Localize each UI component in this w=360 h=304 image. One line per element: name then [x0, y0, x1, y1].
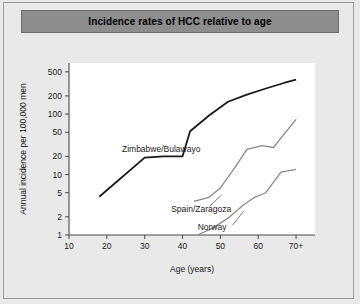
figure-container: Incidence rates of HCC relative to age 5… — [0, 0, 360, 304]
x-tick-label: 30 — [140, 241, 150, 251]
series-label: Zimbabwe/Bulawayo — [122, 144, 201, 154]
y-axis-ticks: 500200100502010521 — [48, 67, 69, 240]
series-label: Spain/Zaragoza — [171, 204, 231, 214]
y-tick-label: 100 — [48, 109, 62, 119]
y-tick-label: 200 — [48, 91, 62, 101]
x-axis-ticks: 10203040506070+ — [64, 235, 303, 251]
x-tick-label: 70+ — [289, 241, 303, 251]
series-label: Norway — [198, 222, 228, 232]
y-tick-label: 2 — [57, 212, 62, 222]
y-tick-label: 1 — [57, 230, 62, 240]
x-tick-label: 60 — [253, 241, 263, 251]
x-tick-label: 20 — [102, 241, 112, 251]
x-axis-title: Age (years) — [170, 264, 214, 274]
y-tick-label: 500 — [48, 67, 62, 77]
x-tick-label: 40 — [178, 241, 188, 251]
y-tick-label: 5 — [57, 188, 62, 198]
y-tick-label: 20 — [53, 151, 63, 161]
x-tick-label: 50 — [216, 241, 226, 251]
plot-area-wrapper: 500200100502010521 10203040506070+ Zimba… — [0, 0, 360, 304]
y-tick-label: 50 — [53, 127, 63, 137]
x-tick-label: 10 — [64, 241, 74, 251]
chart-svg: 500200100502010521 10203040506070+ Zimba… — [0, 0, 360, 304]
y-tick-label: 10 — [53, 170, 63, 180]
y-axis-title: Annual incidence per 100,000 men — [18, 83, 28, 215]
